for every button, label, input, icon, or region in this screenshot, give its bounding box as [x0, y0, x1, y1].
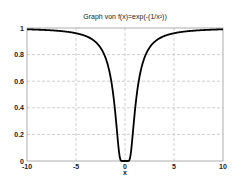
y-tick-label: 0.6 [14, 78, 24, 85]
y-tick-label: 0.4 [14, 104, 24, 111]
chart-plot: -10-5051000.20.40.60.81 [0, 0, 237, 179]
x-axis-label: x [27, 169, 223, 176]
y-tick-label: 0.8 [14, 51, 24, 58]
y-tick-label: 0 [20, 158, 24, 165]
y-tick-label: 1 [20, 25, 24, 32]
y-tick-label: 0.2 [14, 131, 24, 138]
